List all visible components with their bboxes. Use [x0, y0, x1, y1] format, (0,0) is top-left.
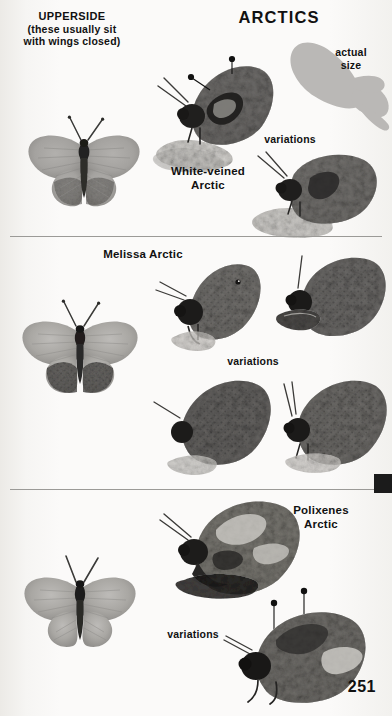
specimen-underside-white-veined-arctic-variation [248, 148, 388, 242]
variations-label-section-3: variations [158, 628, 228, 640]
species-label-white-veined-arctic: White-veined Arctic [160, 164, 256, 193]
actual-size-label: actual size [326, 46, 376, 72]
section-divider-2 [10, 489, 382, 490]
section-tab-marker [374, 474, 392, 493]
page-number: 251 [332, 678, 376, 697]
upperside-note: (these usually sit with wings closed) [4, 23, 140, 48]
section-divider-1 [10, 236, 382, 237]
actual-size-silhouette [288, 28, 392, 140]
variations-label-section-2: variations [218, 355, 288, 367]
specimen-upperside-white-veined-arctic [22, 104, 146, 222]
upperside-heading: UPPERSIDE [8, 10, 136, 23]
variations-label-section-1: variations [255, 133, 325, 145]
specimen-upperside-polixenes-arctic [14, 546, 146, 664]
field-guide-page: UPPERSIDE (these usually sit with wings … [0, 0, 392, 716]
specimen-upperside-melissa-arctic [14, 292, 146, 408]
specimen-underside-melissa-arctic-a [150, 256, 266, 360]
page-title: ARCTICS [224, 8, 334, 27]
specimen-underside-melissa-arctic-b [262, 252, 392, 356]
specimen-underside-melissa-arctic-d [256, 372, 392, 484]
